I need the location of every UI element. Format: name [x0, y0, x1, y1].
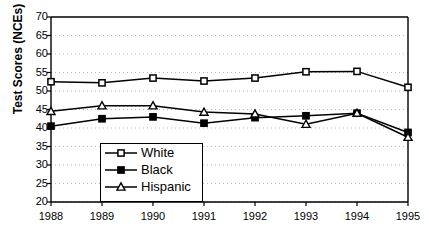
legend-label: Hispanic	[141, 179, 191, 194]
data-point-marker	[118, 166, 124, 172]
data-point-marker	[252, 75, 258, 81]
legend-symbol-open-triangle-icon	[104, 180, 138, 194]
x-axis-tick-label: 1988	[31, 210, 71, 222]
data-point-marker	[303, 113, 309, 119]
data-point-marker	[201, 120, 207, 126]
data-point-marker	[201, 78, 207, 84]
x-axis-tick-label: 1993	[286, 210, 326, 222]
line-chart: Test Scores (NCEs) 202530354045505560657…	[0, 0, 429, 239]
data-point-marker	[405, 84, 411, 90]
data-point-marker	[118, 149, 124, 155]
x-axis-tick-label: 1991	[184, 210, 224, 222]
data-point-marker	[150, 114, 156, 120]
legend-label: White	[141, 145, 174, 160]
data-point-marker	[48, 123, 54, 129]
data-point-marker	[354, 68, 360, 74]
legend-symbol-open-square-icon	[104, 146, 138, 160]
legend-item-black[interactable]: Black	[101, 161, 202, 178]
x-axis-tick-label: 1992	[235, 210, 275, 222]
data-point-marker	[150, 75, 156, 81]
chart-legend: WhiteBlackHispanic	[100, 143, 203, 202]
legend-symbol-filled-square-icon	[104, 163, 138, 177]
x-axis-tick-label: 1989	[82, 210, 122, 222]
legend-item-white[interactable]: White	[101, 144, 202, 161]
x-axis-tick-label: 1995	[388, 210, 428, 222]
x-axis-tick-label: 1994	[337, 210, 377, 222]
legend-label: Black	[141, 162, 173, 177]
data-point-marker	[303, 69, 309, 75]
series-white	[48, 68, 411, 90]
data-point-marker	[99, 80, 105, 86]
legend-item-hispanic[interactable]: Hispanic	[101, 178, 202, 195]
data-point-marker	[99, 116, 105, 122]
plot-area	[0, 0, 429, 239]
data-point-marker	[48, 79, 54, 85]
x-axis-tick-label: 1990	[133, 210, 173, 222]
